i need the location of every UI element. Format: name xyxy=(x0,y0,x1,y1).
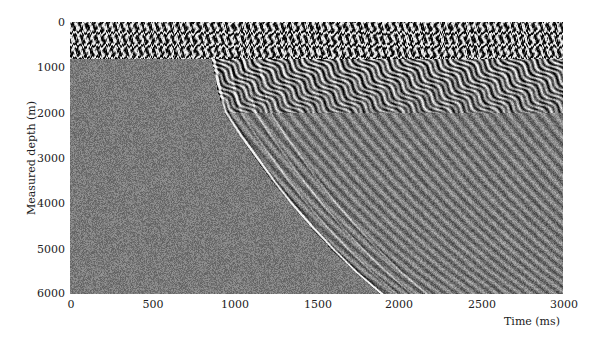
x-tick-label: 1500 xyxy=(304,299,332,311)
x-tick-label: 0 xyxy=(68,299,75,311)
x-axis-label: Time (ms) xyxy=(504,315,560,328)
y-tick-label: 2000 xyxy=(37,108,65,119)
y-tick-label: 4000 xyxy=(37,198,65,209)
y-axis-label: Measured depth (m) xyxy=(25,101,38,215)
y-tick-label: 0 xyxy=(58,17,65,28)
y-tick-label: 3000 xyxy=(37,153,65,164)
y-tick-label: 6000 xyxy=(37,288,65,299)
y-tick-label: 5000 xyxy=(37,244,65,255)
x-tick-label: 500 xyxy=(143,299,164,311)
x-tick-label: 2500 xyxy=(468,299,496,311)
x-tick-label: 2000 xyxy=(385,299,413,311)
seismic-image xyxy=(70,22,563,294)
x-tick-label: 1000 xyxy=(221,299,249,311)
seismic-section-plot xyxy=(70,22,563,294)
x-tick-label: 3000 xyxy=(550,299,578,311)
y-tick-label: 1000 xyxy=(37,62,65,73)
seismic-figure: 0 1000 2000 3000 4000 5000 6000 0 500 10… xyxy=(0,0,597,337)
